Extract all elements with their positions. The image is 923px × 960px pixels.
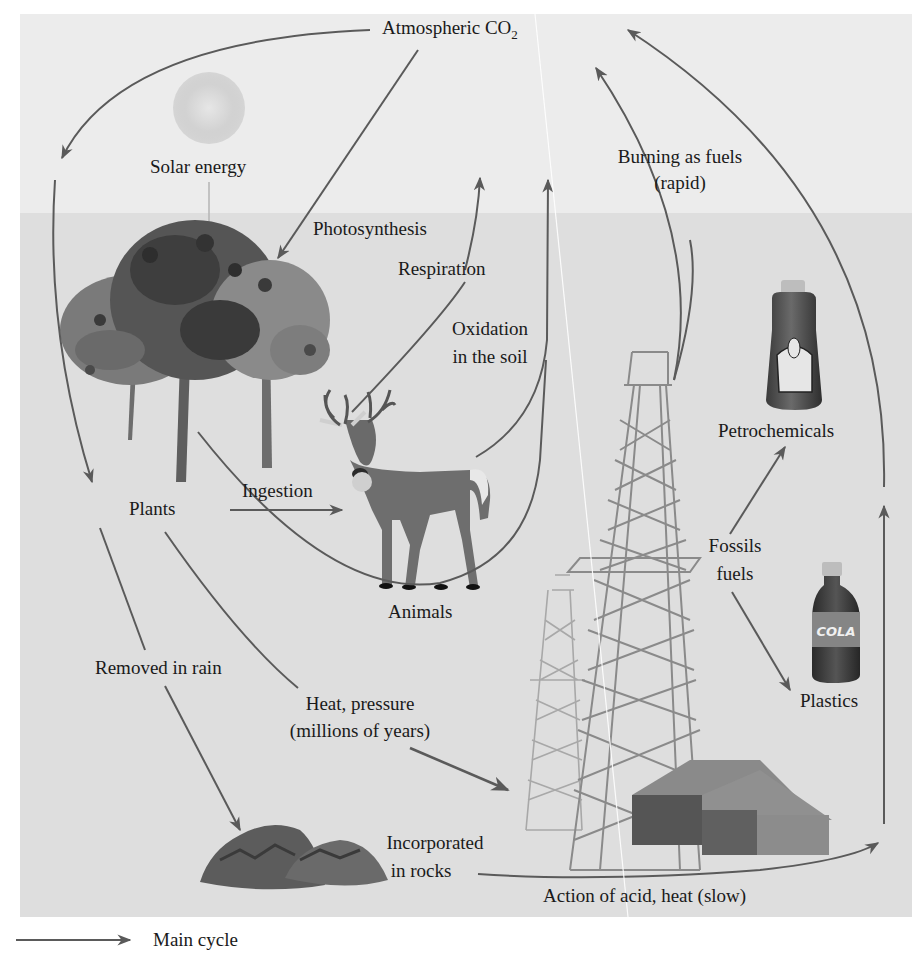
process-heat-pressure: Heat, pressure (millions of years) bbox=[255, 693, 465, 742]
sun-icon bbox=[173, 72, 245, 144]
node-rocks: Incorporated in rocks bbox=[370, 832, 500, 882]
node-atmospheric-co2: Atmospheric CO2 bbox=[382, 17, 518, 46]
diagram-canvas: COLA bbox=[0, 0, 923, 960]
legend-main-cycle-label: Main cycle bbox=[153, 929, 238, 951]
node-solar-energy: Solar energy bbox=[150, 156, 246, 178]
cleaner-bottle-illustration bbox=[766, 280, 822, 410]
node-fossil-fuels: Fossils fuels bbox=[690, 535, 780, 585]
fossil-fuels-line2: fuels bbox=[690, 563, 780, 585]
heat-pressure-line1: Heat, pressure bbox=[255, 693, 465, 715]
process-respiration: Respiration bbox=[398, 258, 486, 280]
process-removed-in-rain: Removed in rain bbox=[95, 657, 222, 679]
node-animals: Animals bbox=[388, 601, 452, 623]
rocks-line1: Incorporated bbox=[370, 832, 500, 854]
node-plastics: Plastics bbox=[800, 690, 858, 712]
burning-line2: (rapid) bbox=[600, 172, 760, 194]
process-burning: Burning as fuels (rapid) bbox=[600, 146, 760, 194]
rocks-line2: in rocks bbox=[342, 860, 500, 882]
node-petrochemicals: Petrochemicals bbox=[718, 420, 834, 442]
fossil-fuels-line1: Fossils bbox=[690, 535, 780, 557]
heat-pressure-line2: (millions of years) bbox=[255, 720, 465, 742]
process-ingestion: Ingestion bbox=[242, 480, 313, 502]
node-plants: Plants bbox=[129, 498, 175, 520]
carbon-cycle-figure: COLA bbox=[0, 0, 923, 960]
process-acid-heat: Action of acid, heat (slow) bbox=[543, 885, 746, 907]
cola-label: COLA bbox=[817, 624, 856, 639]
process-oxidation: Oxidation in the soil bbox=[440, 318, 540, 368]
oxidation-line1: Oxidation bbox=[440, 318, 540, 340]
co2-subscript: 2 bbox=[511, 27, 518, 42]
burning-line1: Burning as fuels bbox=[600, 146, 760, 168]
atmospheric-co2-label: Atmospheric CO bbox=[382, 17, 511, 38]
oxidation-line2: in the soil bbox=[440, 346, 540, 368]
process-photosynthesis: Photosynthesis bbox=[313, 218, 427, 240]
